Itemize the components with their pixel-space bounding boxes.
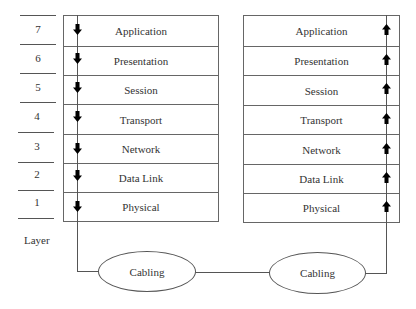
- up-arrow-icon: [382, 172, 391, 183]
- layer-label: Physical: [122, 201, 159, 213]
- up-arrow-icon: [382, 143, 391, 154]
- sender-layer-physical: Physical: [64, 192, 218, 221]
- layer-number-4: 4: [19, 110, 55, 122]
- down-arrow-icon: [73, 143, 82, 154]
- layer-number-3: 3: [19, 140, 55, 152]
- layer-label: Physical: [303, 202, 340, 214]
- up-arrow-icon: [382, 113, 391, 124]
- layer-separator: [18, 190, 54, 191]
- layer-label: Network: [302, 144, 341, 156]
- down-arrow-icon: [73, 82, 82, 93]
- layer-label: Transport: [300, 114, 342, 126]
- layer-label: Session: [124, 84, 158, 96]
- layer-label: Presentation: [294, 55, 348, 67]
- sender-layer-presentation: Presentation: [64, 46, 218, 75]
- layer-number-5: 5: [20, 81, 56, 93]
- layer-label: Data Link: [119, 172, 163, 184]
- layer-label: Session: [305, 85, 339, 97]
- down-arrow-icon: [73, 170, 82, 181]
- layer-separator: [18, 132, 54, 133]
- receiver-layer-session: Session: [244, 75, 399, 105]
- sender-layer-application: Application: [64, 16, 218, 46]
- up-arrow-icon: [382, 54, 391, 65]
- sender-stack: Application Presentation Session Transpo…: [63, 15, 219, 222]
- receiver-layer-data-link: Data Link: [244, 164, 399, 193]
- down-arrow-icon: [73, 201, 82, 212]
- receiver-layer-transport: Transport: [244, 105, 399, 134]
- down-arrow-icon: [73, 53, 82, 64]
- layer-number-1: 1: [19, 196, 55, 208]
- layer-axis-label: Layer: [24, 234, 50, 246]
- receiver-layer-application: Application: [244, 16, 399, 46]
- cable-link-line: [195, 272, 270, 273]
- layer-label: Data Link: [299, 173, 343, 185]
- layer-label: Application: [115, 25, 167, 37]
- receiver-layer-presentation: Presentation: [244, 46, 399, 75]
- layer-label: Network: [122, 143, 161, 155]
- layer-separator: [20, 44, 56, 45]
- receiver-layer-network: Network: [244, 134, 399, 164]
- up-arrow-icon: [382, 24, 391, 35]
- layer-separator: [18, 162, 54, 163]
- sender-layer-data-link: Data Link: [64, 163, 218, 192]
- sender-to-cable-line: [77, 271, 99, 272]
- layer-separator: [20, 73, 56, 74]
- layer-number-2: 2: [19, 168, 55, 180]
- down-arrow-icon: [73, 24, 82, 35]
- sender-layer-transport: Transport: [64, 104, 218, 134]
- cabling-node-left: Cabling: [98, 251, 196, 292]
- layer-label: Application: [296, 25, 348, 37]
- receiver-layer-physical: Physical: [244, 193, 399, 222]
- cable-to-receiver-line: [365, 273, 386, 274]
- up-arrow-icon: [382, 201, 391, 212]
- sender-layer-session: Session: [64, 75, 218, 104]
- layer-separator: [20, 15, 56, 16]
- receiver-stack: Application Presentation Session Transpo…: [243, 15, 400, 223]
- cabling-label: Cabling: [300, 267, 335, 279]
- layer-number-6: 6: [20, 52, 56, 64]
- layer-label: Presentation: [114, 55, 168, 67]
- cabling-label: Cabling: [130, 266, 165, 278]
- sender-layer-network: Network: [64, 134, 218, 163]
- up-arrow-icon: [382, 83, 391, 94]
- layer-separator: [18, 218, 54, 219]
- layer-label: Transport: [120, 114, 162, 126]
- layer-number-7: 7: [20, 23, 56, 35]
- cabling-node-right: Cabling: [269, 252, 366, 294]
- layer-separator: [20, 102, 56, 103]
- down-arrow-icon: [73, 111, 82, 122]
